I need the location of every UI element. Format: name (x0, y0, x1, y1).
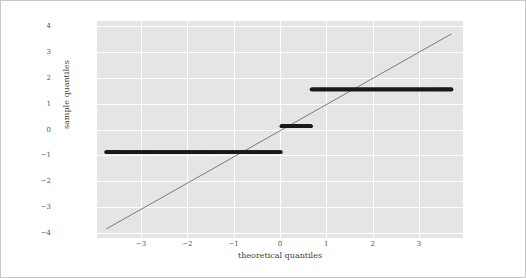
x-tick-label-0: −3 (136, 240, 146, 248)
plot-area (97, 21, 463, 238)
x-tick-label-3: 0 (278, 240, 282, 248)
y-tick-label-3: −1 (41, 151, 51, 159)
x-tick-label-2: −1 (228, 240, 238, 248)
qq-plot-figure: −3−2−10123 −4−3−2−101234 theoretical qua… (0, 0, 526, 278)
y-tick-label-7: 3 (47, 48, 51, 56)
plot-canvas (97, 21, 463, 238)
x-tick-label-4: 1 (324, 240, 328, 248)
y-tick-label-2: −2 (41, 177, 51, 185)
y-tick-label-4: 0 (47, 126, 51, 134)
y-tick-label-1: −3 (41, 203, 51, 211)
y-axis-title: sample quantiles (62, 60, 71, 129)
data-points (104, 88, 453, 154)
x-tick-label-1: −2 (182, 240, 192, 248)
y-tick-label-5: 1 (47, 100, 51, 108)
y-tick-label-8: 4 (47, 22, 51, 30)
y-tick-label-6: 2 (47, 74, 51, 82)
x-axis-title: theoretical quantiles (97, 251, 463, 260)
x-tick-label-6: 3 (417, 240, 421, 248)
y-tick-label-0: −4 (41, 229, 51, 237)
x-tick-label-5: 2 (370, 240, 374, 248)
reference-line (106, 34, 451, 229)
